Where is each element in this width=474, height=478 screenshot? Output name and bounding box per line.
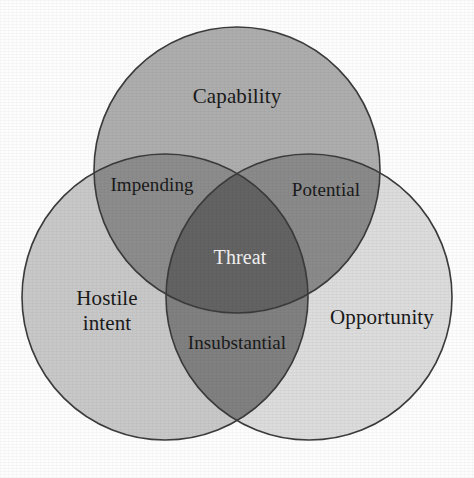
venn-diagram-svg <box>0 0 474 478</box>
venn-diagram: Capability Hostile intent Opportunity Im… <box>0 0 474 478</box>
set-label-opportunity: Opportunity <box>302 305 462 330</box>
intersection-label-potential: Potential <box>262 179 390 201</box>
intersection-label-threat: Threat <box>182 246 298 270</box>
intersection-label-insubstantial: Insubstantial <box>152 332 322 354</box>
set-label-capability: Capability <box>137 84 337 109</box>
intersection-label-impending: Impending <box>82 174 222 196</box>
set-label-hostile-intent: Hostile intent <box>42 286 172 336</box>
